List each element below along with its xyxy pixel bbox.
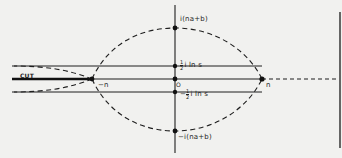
- lower-line-text: i ln s: [190, 90, 208, 98]
- diagram-canvas: [0, 0, 342, 158]
- neg-n-label: −n: [98, 82, 109, 89]
- upper-line-label: 12i ln s: [180, 60, 202, 71]
- point-bottom: [173, 129, 178, 134]
- contour-diagram: CUT −n n O i(na+b) −i(na+b) 12i ln s −12…: [0, 0, 342, 158]
- bottom-label: −i(na+b): [178, 134, 212, 141]
- lower-line-label: −12i ln s: [180, 89, 208, 100]
- origin-label: O: [176, 82, 181, 88]
- lower-line-denominator: 2: [186, 95, 189, 100]
- upper-dashed-arc: [92, 28, 262, 79]
- lower-left-dashed-curve: [14, 79, 92, 92]
- lower-line-fraction: 12: [186, 89, 189, 100]
- point-neg-n: [90, 77, 95, 82]
- point-top: [173, 26, 178, 31]
- cut-label: CUT: [20, 73, 34, 79]
- point-upper-line: [173, 64, 177, 68]
- pos-n-label: n: [266, 82, 271, 89]
- upper-line-denominator: 2: [180, 66, 183, 71]
- point-lower-line: [173, 90, 177, 94]
- upper-line-fraction: 12: [180, 60, 183, 71]
- upper-line-text: i ln s: [184, 61, 202, 69]
- point-n: [259, 76, 264, 81]
- top-label: i(na+b): [180, 16, 208, 23]
